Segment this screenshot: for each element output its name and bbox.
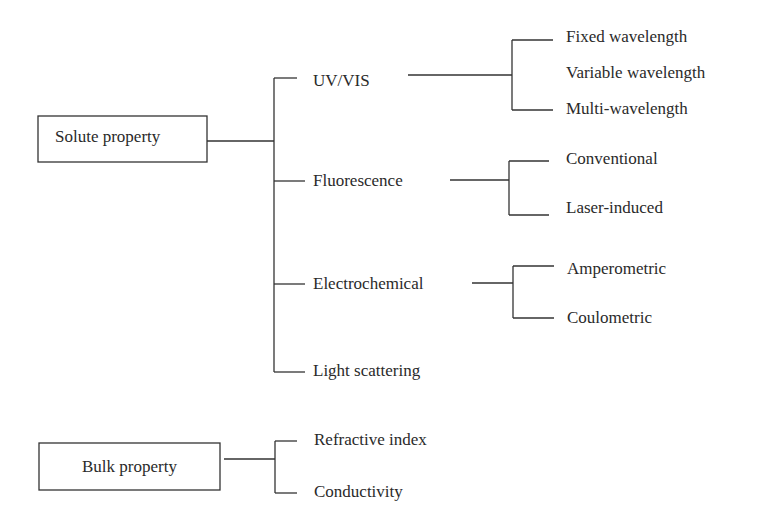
node-coulometric: Coulometric <box>567 308 652 328</box>
node-refractive-index: Refractive index <box>314 430 427 450</box>
node-light-scattering: Light scattering <box>313 361 420 381</box>
node-laser-induced: Laser-induced <box>566 198 663 218</box>
node-fixed-wavelength: Fixed wavelength <box>566 27 687 47</box>
node-conventional: Conventional <box>566 149 658 169</box>
node-uv-vis: UV/VIS <box>313 71 370 91</box>
node-conductivity: Conductivity <box>314 482 403 502</box>
node-solute-property: Solute property <box>55 127 160 147</box>
node-variable-wavelength: Variable wavelength <box>566 63 705 83</box>
node-bulk-property: Bulk property <box>82 457 177 477</box>
node-electrochemical: Electrochemical <box>313 274 423 294</box>
node-fluorescence: Fluorescence <box>313 171 403 191</box>
node-multi-wavelength: Multi-wavelength <box>566 99 688 119</box>
node-amperometric: Amperometric <box>567 259 666 279</box>
